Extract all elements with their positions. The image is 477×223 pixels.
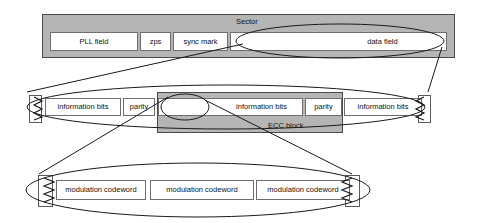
field-pll: PLL field bbox=[50, 32, 138, 51]
field-sync-mark: sync mark bbox=[173, 32, 228, 51]
ecc-parity-1-label: parity bbox=[130, 103, 148, 111]
modulation-codeword-1: modulation codeword bbox=[56, 180, 146, 200]
field-data: data field bbox=[230, 32, 447, 51]
ecc-parity-2-label: parity bbox=[314, 103, 332, 111]
ecc-parity-2: parity bbox=[305, 98, 342, 116]
ecc-information-bits-1-label: information bits bbox=[58, 103, 109, 111]
field-sync-mark-label: sync mark bbox=[183, 38, 217, 46]
modulation-codeword-2-label: modulation codeword bbox=[166, 186, 237, 194]
sector-container-label: Sector bbox=[236, 17, 258, 26]
ecc-left-stub bbox=[29, 95, 42, 123]
modulation-codeword-2: modulation codeword bbox=[150, 180, 254, 200]
modulation-codeword-3-label: modulation codeword bbox=[267, 186, 338, 194]
modulation-codeword-3: modulation codeword bbox=[256, 180, 350, 200]
modulation-left-stub bbox=[38, 175, 53, 207]
ecc-container-label: ECC block bbox=[268, 121, 303, 130]
diagram-canvas: Sector PLL field zps sync mark data fiel… bbox=[0, 0, 477, 223]
ecc-information-bits-3-label: information bits bbox=[358, 103, 409, 111]
field-data-label: data field bbox=[367, 38, 397, 46]
ecc-information-bits-2-label: information bits bbox=[236, 103, 287, 111]
modulation-codeword-1-label: modulation codeword bbox=[65, 186, 136, 194]
field-pll-label: PLL field bbox=[80, 38, 109, 46]
field-zps-label: zps bbox=[150, 38, 162, 46]
ecc-parity-1: parity bbox=[123, 98, 155, 116]
ecc-information-bits-1: information bits bbox=[45, 98, 121, 116]
ecc-information-bits-3: information bits bbox=[344, 98, 422, 116]
field-zps: zps bbox=[140, 32, 171, 51]
ecc-information-bits-2: information bits bbox=[158, 98, 303, 116]
